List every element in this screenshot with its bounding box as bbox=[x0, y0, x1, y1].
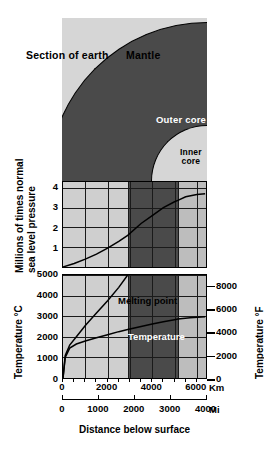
miles-tick-mark bbox=[98, 395, 99, 399]
temperature-c-y-tick: 2000 bbox=[14, 332, 58, 342]
miles-tick-mark bbox=[134, 395, 135, 399]
earth-interior-figure: Section of earth Mantle Outer core Inner… bbox=[0, 0, 264, 451]
temperature-c-y-tick: 3000 bbox=[14, 311, 58, 321]
temperature-f-tick-mark bbox=[207, 309, 215, 311]
plot-temp-curves bbox=[63, 275, 206, 378]
km-tick-label: 2000 bbox=[87, 382, 127, 392]
temperature-f-y-tick: 4000 bbox=[216, 327, 237, 337]
mi-tick-label: 3000 bbox=[150, 404, 190, 414]
temperature-f-y-tick: 2000 bbox=[216, 351, 237, 361]
miles-ruler-line bbox=[62, 399, 207, 400]
km-tick-mark bbox=[84, 379, 85, 382]
pressure-chart-plot-area bbox=[62, 181, 207, 268]
km-tick-mark bbox=[174, 379, 175, 382]
km-tick-label: 6000 bbox=[176, 382, 216, 392]
temperature-f-tick-mark bbox=[207, 356, 215, 358]
temperature-f-y-tick: 6000 bbox=[216, 304, 237, 314]
km-tick-mark bbox=[196, 379, 197, 382]
melting-point-series-label: Melting point bbox=[118, 295, 177, 306]
km-tick-mark bbox=[107, 379, 108, 382]
km-tick-mark bbox=[95, 379, 96, 382]
km-tick-mark bbox=[140, 379, 141, 382]
km-tick-label: 4000 bbox=[131, 382, 171, 392]
km-tick-mark bbox=[162, 379, 163, 382]
pressure-axis-title: Millions of times normal sea level press… bbox=[14, 159, 37, 273]
km-tick-mark bbox=[129, 379, 130, 382]
plot-pressure-curves bbox=[63, 182, 206, 267]
mi-tick-label: 4000 bbox=[186, 404, 226, 414]
inner-core-label: Inner core bbox=[180, 148, 202, 166]
km-tick-mark bbox=[151, 379, 152, 382]
pressure-y-tick: 3 bbox=[40, 202, 58, 212]
temperature-chart-plot-area bbox=[62, 274, 207, 379]
temperature-f-tick-mark bbox=[207, 379, 215, 381]
temperature-c-y-tick: 5000 bbox=[14, 269, 58, 279]
temperature-f-y-tick: 0 bbox=[216, 374, 221, 384]
mi-tick-label: 2000 bbox=[114, 404, 154, 414]
curve-melting-point bbox=[63, 275, 128, 378]
miles-tick-mark bbox=[170, 395, 171, 399]
miles-tick-mark bbox=[62, 395, 63, 399]
km-tick-mark bbox=[185, 379, 186, 382]
temperature-f-tick-mark bbox=[207, 286, 215, 288]
km-tick-mark bbox=[118, 379, 119, 382]
temperature-f-tick-mark bbox=[207, 332, 215, 334]
mantle-label: Mantle bbox=[126, 50, 160, 61]
x-axis-caption: Distance below surface bbox=[62, 424, 207, 436]
temperature-series-label: Temperature bbox=[128, 331, 185, 342]
km-tick-label: 0 bbox=[42, 382, 82, 392]
pressure-y-tick: 4 bbox=[40, 182, 58, 192]
pressure-y-tick: 2 bbox=[40, 223, 58, 233]
temperature-c-y-tick: 4000 bbox=[14, 290, 58, 300]
km-tick-mark bbox=[62, 379, 63, 382]
temperature-f-y-tick: 8000 bbox=[216, 281, 237, 291]
section-of-earth-label: Section of earth bbox=[26, 50, 109, 61]
temperature-f-axis-title: Temperature °F bbox=[254, 306, 264, 379]
km-tick-mark bbox=[73, 379, 74, 382]
pressure-y-tick: 1 bbox=[40, 243, 58, 253]
outer-core-label: Outer core bbox=[156, 115, 206, 125]
curve-pressure bbox=[63, 194, 205, 267]
mi-tick-label: 1000 bbox=[78, 404, 118, 414]
miles-tick-mark bbox=[206, 395, 207, 399]
temperature-c-y-tick: 1000 bbox=[14, 353, 58, 363]
mi-tick-label: 0 bbox=[42, 404, 82, 414]
